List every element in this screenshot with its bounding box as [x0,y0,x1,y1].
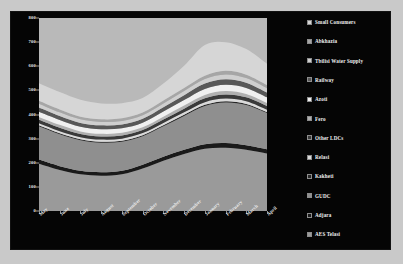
y-tick-label: 0 [34,208,37,214]
legend-label: Railway [315,77,334,83]
legend-item[interactable]: Azoti [307,95,327,103]
legend-label: AES Telasi [315,231,340,237]
legend-swatch-icon [307,155,312,160]
legend-label: Adjara [315,212,331,218]
y-tick-label: 100 [29,184,37,190]
legend-item[interactable]: Relasi [307,153,329,161]
legend-label: GUDC [315,193,331,199]
legend-item[interactable]: Adjara [307,211,331,219]
legend-swatch-icon [307,20,312,25]
legend-swatch-icon [307,174,312,179]
legend-swatch-icon [307,97,312,102]
legend-item[interactable]: AES Telasi [307,230,340,238]
y-tick-label: 400 [29,112,37,118]
y-tick-label: 500 [29,87,37,93]
legend-swatch-icon [307,116,312,121]
legend-item[interactable]: Tbilisi Water Supply [307,57,363,65]
legend-swatch-icon [307,39,312,44]
chart-screenshot: 0100200300400500600700800 MayJuneJulyAug… [0,0,403,264]
legend-swatch-icon [307,135,312,140]
legend-label: Other LDCs [315,135,343,141]
legend-label: Abkhazia [315,38,337,44]
legend-item[interactable]: Other LDCs [307,134,343,142]
stacked-area-plot [39,18,267,211]
plot-area [39,18,267,211]
y-tick-label: 600 [29,63,37,69]
legend-item[interactable]: GUDC [307,192,331,200]
legend-swatch-icon [307,232,312,237]
legend-swatch-icon [307,77,312,82]
y-tick-label: 800 [29,15,37,21]
y-tick-label: 200 [29,160,37,166]
y-axis: 0100200300400500600700800 [11,12,39,217]
chart-frame: 0100200300400500600700800 MayJuneJulyAug… [10,11,391,250]
legend-label: Small Consumers [315,19,356,25]
legend-item[interactable]: Abkhazia [307,37,337,45]
legend-item[interactable]: Fero [307,115,326,123]
x-axis: MayJuneJulyAugustSeptemberOctoberNovembe… [39,211,271,259]
y-tick-label: 700 [29,39,37,45]
legend-label: Fero [315,116,326,122]
legend-item[interactable]: Kakheti [307,172,334,180]
legend: Small ConsumersAbkhaziaTbilisi Water Sup… [307,12,392,251]
legend-swatch-icon [307,213,312,218]
legend-swatch-icon [307,193,312,198]
legend-item[interactable]: Small Consumers [307,18,356,26]
legend-item[interactable]: Railway [307,76,334,84]
legend-label: Tbilisi Water Supply [315,58,363,64]
y-tick-label: 300 [29,136,37,142]
legend-label: Relasi [315,154,329,160]
legend-swatch-icon [307,58,312,63]
x-tick-label: April [266,205,278,216]
legend-label: Azoti [315,96,327,102]
legend-label: Kakheti [315,173,334,179]
